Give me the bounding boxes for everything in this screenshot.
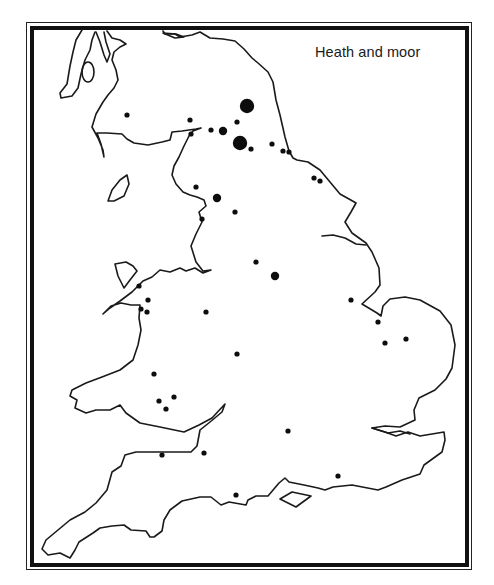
site-dot-small: [311, 175, 316, 180]
site-dot-small: [234, 351, 239, 356]
site-dot-small: [163, 406, 168, 411]
site-dot-small: [232, 209, 237, 214]
site-dot-small: [203, 309, 208, 314]
site-dot-small: [145, 297, 150, 302]
site-dot-medium: [213, 194, 221, 202]
site-dot-small: [124, 112, 129, 117]
site-dot-small: [348, 297, 353, 302]
island-lindisfarne: [163, 33, 184, 38]
map-title: Heath and moor: [315, 44, 420, 60]
island-isle-of-wight: [280, 492, 311, 507]
island-anglesey: [115, 262, 137, 288]
site-dot-small: [317, 178, 322, 183]
site-dot-small: [286, 149, 291, 154]
site-dot-small: [159, 452, 164, 457]
site-dot-small: [156, 398, 161, 403]
site-dot-large: [233, 136, 247, 150]
site-dot-small: [375, 319, 380, 324]
site-dot-small: [248, 146, 253, 151]
island-arran: [82, 62, 94, 82]
site-dot-small: [382, 340, 387, 345]
site-dot-small: [335, 473, 340, 478]
site-dot-small: [269, 141, 274, 146]
site-dot-small: [144, 309, 149, 314]
coastline-thames: [372, 428, 410, 434]
site-dot-small: [136, 283, 141, 288]
site-dot-small: [171, 394, 176, 399]
coastline-scotland-west: [60, 30, 95, 98]
island-isle-of-man: [108, 175, 129, 201]
site-dot-small: [151, 371, 156, 376]
map-canvas: [0, 0, 494, 585]
site-dot-small: [138, 306, 143, 311]
coastline-scotland-kintyre: [96, 32, 110, 62]
site-dot-small: [285, 428, 290, 433]
site-dot-small: [193, 184, 198, 189]
site-dot-large: [240, 99, 254, 113]
site-dots: [124, 99, 408, 498]
coastline-humber: [322, 235, 366, 245]
site-dot-small: [234, 119, 239, 124]
site-dot-small: [208, 127, 213, 132]
site-dot-medium: [219, 127, 227, 135]
site-dot-small: [233, 492, 238, 497]
site-dot-small: [201, 450, 206, 455]
site-dot-small: [253, 259, 258, 264]
site-dot-small: [403, 336, 408, 341]
site-dot-small: [188, 131, 193, 136]
site-dot-medium: [271, 272, 279, 280]
site-dot-small: [187, 117, 192, 122]
site-dot-small: [199, 216, 204, 221]
site-dot-small: [280, 148, 285, 153]
